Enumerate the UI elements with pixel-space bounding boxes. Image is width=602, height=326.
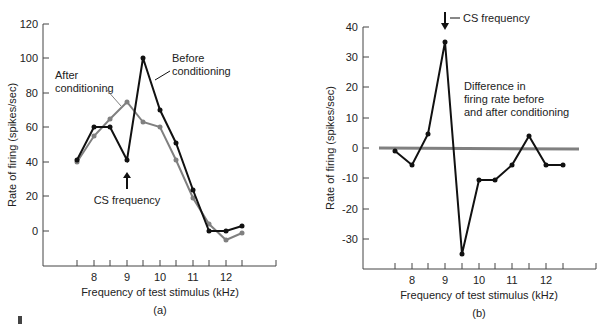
corner-marker [18, 316, 22, 324]
svg-text:After: After [55, 69, 79, 81]
y-tick-label: 0 [352, 142, 358, 154]
y-tick-label: 120 [20, 18, 38, 30]
svg-text:CS frequency: CS frequency [463, 12, 530, 24]
y-tick-label: 10 [346, 112, 358, 124]
x-tick-label: 11 [506, 274, 517, 286]
svg-text:and after conditioning: and after conditioning [464, 106, 569, 118]
y-tick-label: 30 [346, 51, 358, 63]
chart-a-x-tick-labels: 8 9 10 11 12 [91, 271, 232, 283]
y-tick-label: -30 [342, 233, 358, 245]
y-tick-label: 40 [26, 156, 38, 168]
svg-text:conditioning: conditioning [172, 65, 231, 77]
chart-b-y-axis-title: Rate of firing (spikes/sec) [324, 86, 336, 210]
svg-text:Difference in: Difference in [464, 80, 526, 92]
x-tick-label: 12 [220, 271, 232, 283]
chart-a-before-label: Before conditioning [155, 52, 231, 80]
chart-a-y-tick-labels: 120 100 80 60 40 20 0 [20, 18, 38, 237]
series-after-markers [75, 100, 245, 243]
y-tick-label: 40 [346, 21, 358, 33]
x-tick-label: 10 [473, 274, 485, 286]
svg-text:Before: Before [172, 52, 204, 64]
chart-b-cs-frequency-annotation: CS frequency [441, 12, 530, 30]
chart-a-x-ticks [77, 260, 276, 266]
svg-text:firing rate before: firing rate before [464, 93, 544, 105]
chart-b-difference-label: Difference in firing rate before and aft… [464, 80, 569, 118]
svg-text:conditioning: conditioning [55, 82, 114, 94]
svg-text:CS frequency: CS frequency [94, 194, 161, 206]
chart-b: 40 30 20 10 0 -10 -20 -30 8 9 10 [324, 12, 596, 319]
chart-a-caption: (a) [153, 304, 166, 316]
chart-b-x-ticks [395, 263, 596, 269]
x-tick-label: 11 [187, 271, 198, 283]
x-tick-label: 9 [442, 274, 448, 286]
y-tick-label: 20 [26, 190, 38, 202]
chart-a-y-ticks [43, 24, 49, 231]
chart-b-y-ticks [363, 27, 369, 239]
chart-b-y-tick-labels: 40 30 20 10 0 -10 -20 -30 [342, 21, 358, 245]
x-tick-label: 10 [154, 271, 166, 283]
y-tick-label: 100 [20, 52, 38, 64]
y-tick-label: 0 [32, 225, 38, 237]
chart-a-cs-frequency-annotation: CS frequency [94, 172, 161, 206]
series-after-conditioning [77, 102, 242, 240]
x-tick-label: 9 [124, 271, 130, 283]
x-tick-label: 12 [540, 274, 552, 286]
x-tick-label: 8 [91, 271, 97, 283]
y-tick-label: -20 [342, 203, 358, 215]
chart-a-y-axis-title: Rate of firing (spikes/sec) [6, 83, 18, 207]
figure: 120 100 80 60 40 20 0 8 9 10 1 [0, 0, 602, 326]
chart-b-x-axis-title: Frequency of test stimulus (kHz) [400, 289, 558, 301]
y-tick-label: 60 [26, 121, 38, 133]
chart-a-after-label: After conditioning [55, 69, 121, 106]
y-tick-label: -10 [342, 172, 358, 184]
chart-b-zero-line [379, 148, 579, 149]
y-tick-label: 20 [346, 81, 358, 93]
chart-b-x-tick-labels: 8 9 10 11 12 [409, 274, 552, 286]
chart-a-x-axis-title: Frequency of test stimulus (kHz) [81, 286, 239, 298]
chart-b-caption: (b) [472, 307, 485, 319]
chart-a: 120 100 80 60 40 20 0 8 9 10 1 [6, 18, 276, 316]
x-tick-label: 8 [409, 274, 415, 286]
y-tick-label: 80 [26, 87, 38, 99]
